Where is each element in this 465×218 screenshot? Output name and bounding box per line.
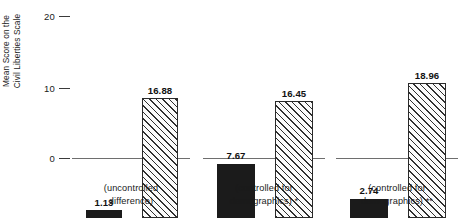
y-tick-20: 20 — [28, 10, 70, 22]
bar-chart: Mean Score on the Civil Liberties Scale … — [0, 0, 465, 218]
bar-value-elite: 18.96 — [415, 70, 440, 81]
bar-group-controlled-demographics-2: 2.74 Mass 18.96 Elite (controlled for de… — [336, 0, 458, 218]
y-tick-mark-0 — [59, 158, 70, 159]
bar-group-uncontrolled: 1.13 Mass 16.88 Elite (uncontrolled diff… — [72, 0, 190, 218]
bar-value-mass: 7.67 — [226, 150, 245, 161]
bar-group-controlled-demographics-1: 7.67 Mass 16.45 Elite (controlled for de… — [203, 0, 325, 218]
y-tick-label-20: 20 — [44, 11, 55, 22]
group-caption: (controlled for demographics) ** — [336, 182, 458, 207]
group-caption: (uncontrolled difference) — [72, 182, 190, 207]
group-caption: (controlled for demographics) * — [203, 182, 325, 207]
y-tick-label-10: 10 — [44, 83, 55, 94]
y-tick-mark-10 — [59, 88, 70, 89]
y-tick-10: 10 — [28, 82, 70, 94]
bar-value-elite: 16.45 — [282, 88, 307, 99]
bar-mass[interactable] — [86, 210, 122, 218]
y-tick-label-0: 0 — [50, 153, 55, 164]
y-axis-title: Mean Score on the Civil Liberties Scale — [1, 0, 31, 111]
y-tick-mark-20 — [59, 16, 70, 17]
y-tick-0: 0 — [28, 152, 70, 164]
bar-value-elite: 16.88 — [148, 85, 173, 96]
